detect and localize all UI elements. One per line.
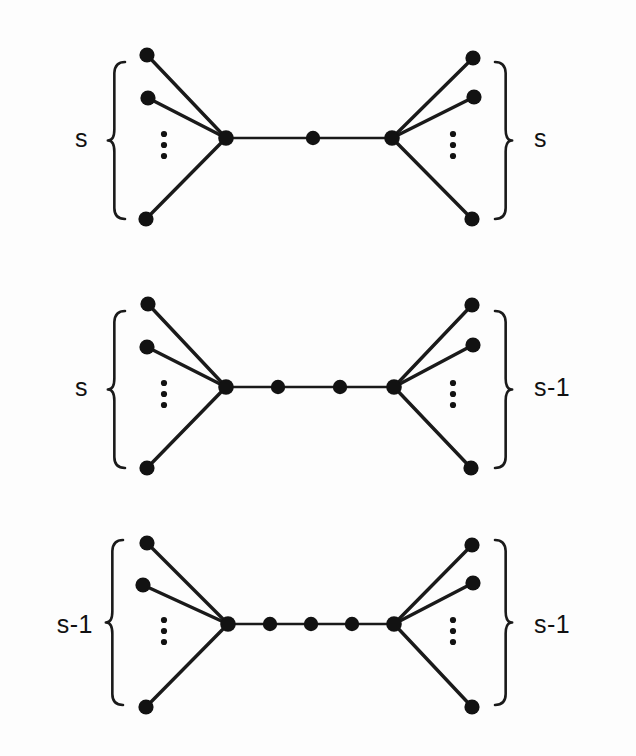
left-leaf-node-1[interactable]	[140, 296, 155, 311]
right-brace	[495, 62, 512, 219]
right-vertical-ellipsis-dot-1	[450, 131, 456, 137]
right-brace	[495, 311, 512, 468]
left-hub-node[interactable]	[220, 616, 236, 632]
left-leaf-node-3[interactable]	[138, 699, 153, 714]
right-leaf-node-3[interactable]	[464, 699, 479, 714]
left-leaf-node-3[interactable]	[138, 211, 153, 226]
right-count-label: s-1	[534, 373, 570, 401]
left-count-label: s	[75, 373, 88, 401]
right-leaf-edge-2	[394, 583, 473, 624]
right-hub-node[interactable]	[386, 379, 402, 395]
left-leaf-edge-1	[147, 543, 228, 624]
panel-bottom: s-1s-1	[57, 535, 570, 714]
left-vertical-ellipsis-dot-2	[161, 628, 167, 634]
left-vertical-ellipsis-dot-3	[161, 639, 167, 645]
right-leaf-edge-3	[394, 387, 471, 468]
left-leaf-node-2[interactable]	[140, 90, 155, 105]
right-hub-node[interactable]	[386, 616, 402, 632]
left-leaf-node-2[interactable]	[135, 577, 150, 592]
left-leaf-node-2[interactable]	[139, 339, 154, 354]
left-leaf-edge-2	[148, 98, 226, 138]
left-vertical-ellipsis-dot-3	[161, 402, 167, 408]
left-leaf-edge-2	[143, 585, 228, 624]
left-vertical-ellipsis-dot-1	[161, 131, 167, 137]
right-vertical-ellipsis-dot-2	[450, 391, 456, 397]
right-leaf-edge-1	[394, 545, 472, 624]
right-count-label: s-1	[534, 610, 570, 638]
spine-node-3[interactable]	[345, 617, 359, 631]
left-brace	[108, 311, 125, 468]
right-leaf-edge-1	[394, 305, 472, 387]
right-leaf-node-1[interactable]	[464, 297, 479, 312]
right-hub-node[interactable]	[384, 130, 400, 146]
left-count-label: s-1	[57, 610, 93, 638]
left-leaf-edge-3	[147, 387, 226, 468]
right-leaf-node-2[interactable]	[465, 337, 480, 352]
figure-root: ssss-1s-1s-1	[0, 0, 636, 756]
left-leaf-edge-1	[147, 55, 226, 138]
left-vertical-ellipsis-dot-1	[161, 617, 167, 623]
left-hub-node[interactable]	[218, 130, 234, 146]
panel-middle: ss-1	[75, 296, 570, 475]
right-leaf-node-1[interactable]	[464, 537, 479, 552]
spine-node-1[interactable]	[306, 131, 320, 145]
panel-top: ss	[75, 47, 547, 226]
right-vertical-ellipsis-dot-3	[450, 639, 456, 645]
right-leaf-node-1[interactable]	[465, 50, 480, 65]
right-vertical-ellipsis-dot-3	[450, 153, 456, 159]
left-brace	[106, 540, 123, 705]
left-vertical-ellipsis-dot-3	[161, 153, 167, 159]
right-vertical-ellipsis-dot-1	[450, 380, 456, 386]
right-leaf-edge-3	[394, 624, 472, 707]
right-leaf-edge-2	[392, 97, 474, 138]
spine-node-1[interactable]	[263, 617, 277, 631]
spine-node-2[interactable]	[333, 380, 347, 394]
right-leaf-edge-3	[392, 138, 472, 219]
right-leaf-node-2[interactable]	[465, 575, 480, 590]
right-count-label: s	[534, 124, 547, 152]
right-vertical-ellipsis-dot-2	[450, 628, 456, 634]
left-leaf-node-1[interactable]	[139, 47, 154, 62]
left-leaf-edge-1	[148, 304, 226, 387]
right-leaf-node-2[interactable]	[466, 89, 481, 104]
right-leaf-edge-2	[394, 345, 473, 387]
left-vertical-ellipsis-dot-1	[161, 380, 167, 386]
left-vertical-ellipsis-dot-2	[161, 391, 167, 397]
left-count-label: s	[75, 124, 88, 152]
right-leaf-node-3[interactable]	[463, 460, 478, 475]
right-leaf-edge-1	[392, 58, 473, 138]
left-vertical-ellipsis-dot-2	[161, 142, 167, 148]
left-hub-node[interactable]	[218, 379, 234, 395]
right-vertical-ellipsis-dot-3	[450, 402, 456, 408]
graph-figure-canvas: ssss-1s-1s-1	[0, 0, 636, 756]
panels-group: ssss-1s-1s-1	[57, 47, 570, 714]
left-leaf-edge-3	[146, 624, 228, 707]
left-leaf-edge-2	[147, 347, 226, 387]
left-brace	[108, 62, 125, 219]
spine-node-1[interactable]	[271, 380, 285, 394]
right-brace	[495, 540, 512, 705]
spine-node-2[interactable]	[304, 617, 318, 631]
right-vertical-ellipsis-dot-1	[450, 617, 456, 623]
right-leaf-node-3[interactable]	[464, 211, 479, 226]
left-leaf-node-1[interactable]	[139, 535, 154, 550]
right-vertical-ellipsis-dot-2	[450, 142, 456, 148]
left-leaf-node-3[interactable]	[139, 460, 154, 475]
left-leaf-edge-3	[146, 138, 226, 219]
